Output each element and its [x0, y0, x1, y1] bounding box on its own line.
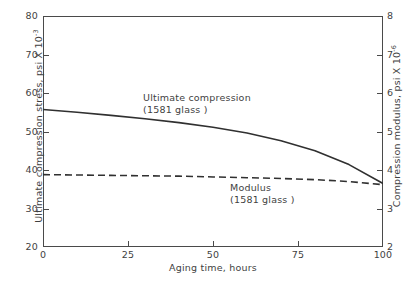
x-axis-tick-label: 75: [283, 250, 313, 260]
y-axis-left-tick: [44, 170, 49, 171]
x-axis-tick-label: 50: [198, 250, 228, 260]
y-axis-left-tick: [44, 132, 49, 133]
figure: 8070605040302087654320255075100 Ultimate…: [0, 0, 419, 283]
y-axis-right-tick: [377, 132, 382, 133]
x-axis-tick-label: 100: [368, 250, 398, 260]
y-axis-left-tick: [44, 209, 49, 210]
annotation-ultimate-compression: Ultimate compression (1581 glass ): [143, 92, 251, 116]
annotation-ultimate-compression-line2: (1581 glass ): [143, 104, 251, 116]
y-axis-right-title-text: Compression modulus, psi X 10: [391, 52, 402, 208]
y-axis-right-tick: [377, 55, 382, 56]
x-axis-tick: [213, 241, 214, 246]
y-axis-right-tick: [377, 209, 382, 210]
y-axis-right-tick: [377, 93, 382, 94]
x-axis-tick: [298, 241, 299, 246]
x-axis-title: Aging time, hours: [143, 262, 283, 273]
y-axis-right-tick-label: 8: [387, 11, 413, 21]
series-ultimate-compression: [43, 110, 383, 184]
y-axis-right-title: Compression modulus, psi X 10-6: [390, 26, 402, 226]
annotation-modulus-line1: Modulus: [230, 182, 295, 194]
y-axis-left-title-text: Ultimate compression stress, psi X 10: [33, 36, 44, 223]
x-axis-tick-label: 0: [28, 250, 58, 260]
series-modulus: [43, 175, 383, 185]
annotation-ultimate-compression-line1: Ultimate compression: [143, 92, 251, 104]
y-axis-left-title: Ultimate compression stress, psi X 10-3: [32, 26, 44, 226]
y-axis-left-title-exponent: -3: [32, 29, 40, 36]
y-axis-left-tick-label: 80: [12, 11, 38, 21]
y-axis-left-tick: [44, 55, 49, 56]
y-axis-right-title-exponent: -6: [390, 45, 398, 52]
annotation-modulus: Modulus (1581 glass ): [230, 182, 295, 206]
y-axis-right-tick: [377, 170, 382, 171]
annotation-modulus-line2: (1581 glass ): [230, 194, 295, 206]
plot-data-area: [43, 16, 383, 247]
x-axis-tick: [128, 241, 129, 246]
y-axis-left-tick: [44, 93, 49, 94]
x-axis-tick-label: 25: [113, 250, 143, 260]
